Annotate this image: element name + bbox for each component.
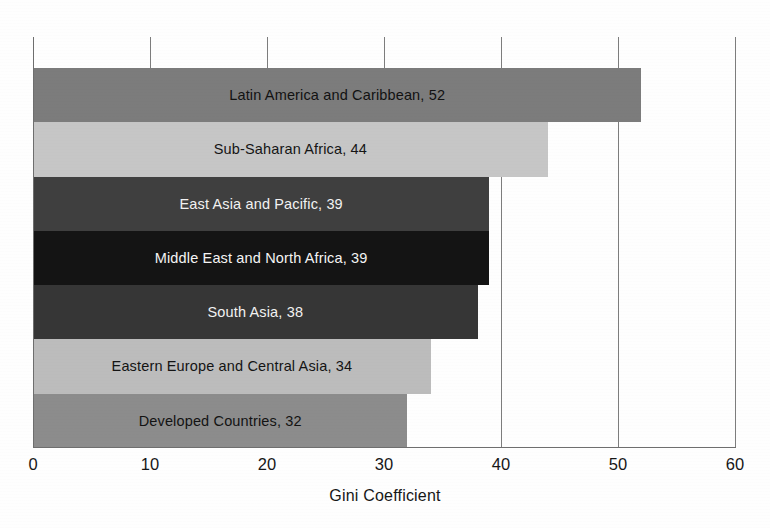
bar-series: Latin America and Caribbean, 52Sub-Sahar… bbox=[33, 68, 735, 448]
bar-row: Latin America and Caribbean, 52 bbox=[33, 68, 735, 122]
bar-eastern-europe-and-central-asia[interactable]: Eastern Europe and Central Asia, 34 bbox=[33, 339, 431, 393]
gini-coefficient-bar-chart: Latin America and Caribbean, 52Sub-Sahar… bbox=[0, 0, 770, 528]
bar-middle-east-and-north-africa[interactable]: Middle East and North Africa, 39 bbox=[33, 231, 489, 285]
x-tick-label-60: 60 bbox=[726, 455, 744, 474]
bar-row: Sub-Saharan Africa, 44 bbox=[33, 122, 735, 176]
bar-south-asia[interactable]: South Asia, 38 bbox=[33, 285, 478, 339]
bar-row: South Asia, 38 bbox=[33, 285, 735, 339]
bar-label: Latin America and Caribbean, 52 bbox=[229, 87, 445, 103]
bar-row: Middle East and North Africa, 39 bbox=[33, 231, 735, 285]
bar-label: Middle East and North Africa, 39 bbox=[155, 250, 368, 266]
bar-latin-america-and-caribbean[interactable]: Latin America and Caribbean, 52 bbox=[33, 68, 641, 122]
x-axis-line bbox=[33, 447, 736, 448]
gridline-60 bbox=[735, 37, 736, 448]
bar-label: Developed Countries, 32 bbox=[139, 413, 302, 429]
x-tick-label-10: 10 bbox=[141, 455, 159, 474]
x-tick-label-50: 50 bbox=[609, 455, 627, 474]
bar-developed-countries[interactable]: Developed Countries, 32 bbox=[33, 394, 407, 448]
y-axis-line bbox=[33, 37, 34, 448]
x-tick-label-20: 20 bbox=[258, 455, 276, 474]
bar-label: Eastern Europe and Central Asia, 34 bbox=[112, 358, 353, 374]
bar-label: East Asia and Pacific, 39 bbox=[179, 196, 342, 212]
bar-row: Eastern Europe and Central Asia, 34 bbox=[33, 339, 735, 393]
x-tick-label-40: 40 bbox=[492, 455, 510, 474]
x-tick-label-0: 0 bbox=[28, 455, 37, 474]
x-axis-title: Gini Coefficient bbox=[0, 487, 770, 505]
x-tick-label-30: 30 bbox=[375, 455, 393, 474]
bar-label: Sub-Saharan Africa, 44 bbox=[214, 141, 367, 157]
bar-label: South Asia, 38 bbox=[207, 304, 303, 320]
x-axis-tick-labels: 0102030405060 bbox=[0, 455, 770, 481]
bar-row: Developed Countries, 32 bbox=[33, 394, 735, 448]
bar-sub-saharan-africa[interactable]: Sub-Saharan Africa, 44 bbox=[33, 122, 548, 176]
bar-east-asia-and-pacific[interactable]: East Asia and Pacific, 39 bbox=[33, 177, 489, 231]
bar-row: East Asia and Pacific, 39 bbox=[33, 177, 735, 231]
